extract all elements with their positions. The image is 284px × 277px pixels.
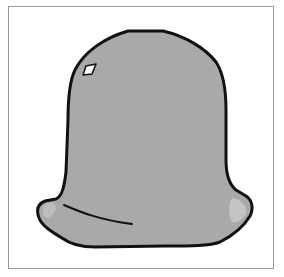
bell-illustration [0, 0, 284, 277]
bell-body [38, 31, 252, 247]
